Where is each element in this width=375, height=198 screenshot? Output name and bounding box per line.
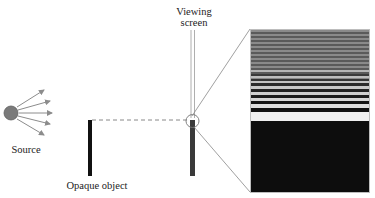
fringe: [251, 76, 369, 78]
light-source-icon: [4, 106, 18, 120]
viewing-screen: [190, 30, 195, 176]
opaque-object-label: Opaque object: [52, 180, 142, 191]
diffraction-pattern-inset: [250, 29, 370, 193]
light-ray-arrows: [17, 90, 52, 135]
source-label: Source: [5, 144, 47, 155]
fringe: [251, 70, 369, 72]
viewing-screen-label-line1: Viewing: [174, 6, 214, 17]
shadow-region: [251, 123, 369, 193]
viewing-screen-label-line2: screen: [174, 17, 214, 28]
bright-central-fringe: [251, 112, 369, 121]
zoom-callout-lines: [192, 29, 250, 192]
opaque-object-bar: [88, 120, 92, 176]
edge-diffraction-diagram: Source Opaque object Viewing screen: [0, 0, 375, 198]
